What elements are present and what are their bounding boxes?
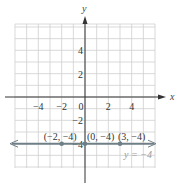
point-label: (0, −4) bbox=[87, 131, 114, 143]
equation-label: y = −4 bbox=[123, 149, 152, 160]
data-point bbox=[118, 141, 123, 146]
point-label: (3, −4) bbox=[118, 131, 145, 143]
x-axis-label: x bbox=[169, 91, 175, 102]
point-label: (−2, −4) bbox=[44, 131, 77, 143]
x-axis-arrow-icon bbox=[158, 95, 166, 100]
y-axis-arrow-icon bbox=[83, 16, 88, 24]
graph: xy −4−224042−2−4 y = −4 (−2, −4)(0, −4)(… bbox=[0, 0, 181, 188]
x-tick-label: −2 bbox=[56, 101, 67, 112]
y-tick-label: −2 bbox=[72, 115, 83, 126]
x-tick-label: 2 bbox=[106, 101, 111, 112]
x-tick-label: −4 bbox=[33, 101, 44, 112]
data-point bbox=[83, 141, 88, 146]
data-point bbox=[59, 141, 64, 146]
y-tick-label: 4 bbox=[78, 45, 83, 56]
y-axis-label: y bbox=[81, 3, 87, 14]
x-tick-label: 4 bbox=[129, 101, 134, 112]
y-tick-label: 2 bbox=[78, 69, 83, 80]
origin-label: 0 bbox=[79, 101, 84, 112]
